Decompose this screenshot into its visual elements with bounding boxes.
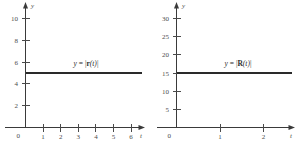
- y-tick-label-10-left: 10: [11, 15, 19, 23]
- y-axis-name-right: y: [181, 2, 186, 10]
- origin-label-left: 0: [17, 132, 21, 140]
- x-axis-name-left: t: [140, 132, 143, 140]
- y-tick-label-25-right: 25: [162, 33, 170, 41]
- x-axis-name-right: t: [290, 132, 293, 140]
- left-chart-svg: 10 8 6 4 2 0 1 2 3 4 5 6 y t: [0, 0, 153, 150]
- y-tick-label-15-right: 15: [162, 70, 170, 78]
- plot-panel-left: 10 8 6 4 2 0 1 2 3 4 5 6 y t: [0, 0, 153, 150]
- x-axis-arrow-left: [139, 125, 146, 130]
- y-tick-label-30-right: 30: [162, 15, 170, 23]
- y-tick-label-8-left: 8: [15, 37, 19, 45]
- y-axis-arrow-right: [174, 2, 179, 9]
- curve-label-left: y = |r(t)|: [73, 59, 99, 68]
- curve-label-right: y = |R(t)|: [224, 59, 252, 68]
- x-tick-label-6-left: 6: [129, 133, 133, 141]
- origin-label-right: 0: [168, 132, 172, 140]
- x-tick-label-2-left: 2: [59, 133, 63, 141]
- figure-container: 10 8 6 4 2 0 1 2 3 4 5 6 y t: [0, 0, 306, 150]
- x-tick-label-4-left: 4: [94, 133, 98, 141]
- right-chart-svg: 30 25 20 15 10 5 0 1 2 y t y = |R(t)|: [153, 0, 306, 150]
- y-tick-label-5-right: 5: [166, 106, 170, 114]
- x-tick-label-3-left: 3: [77, 133, 81, 141]
- x-tick-label-5-left: 5: [112, 133, 116, 141]
- y-tick-label-10-right: 10: [162, 88, 170, 96]
- x-axis-arrow-right: [289, 125, 296, 130]
- y-axis-name-left: y: [30, 2, 35, 10]
- x-tick-label-1-right: 1: [218, 133, 222, 141]
- y-tick-label-2-left: 2: [15, 102, 19, 110]
- x-tick-label-2-right: 2: [262, 133, 266, 141]
- plot-panel-right: 30 25 20 15 10 5 0 1 2 y t y = |R(t)|: [153, 0, 306, 150]
- y-axis-arrow-left: [23, 2, 28, 9]
- x-tick-label-1-left: 1: [41, 133, 45, 141]
- y-tick-label-6-left: 6: [15, 59, 19, 67]
- y-tick-label-20-right: 20: [162, 51, 170, 59]
- y-tick-label-4-left: 4: [15, 80, 19, 88]
